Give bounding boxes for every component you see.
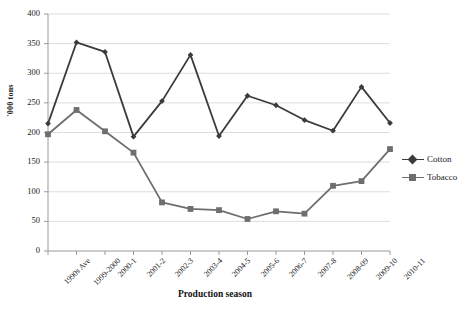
y-tick-label: 150 bbox=[14, 157, 40, 166]
x-axis-title: Production season bbox=[178, 289, 252, 299]
y-tick-label: 50 bbox=[14, 216, 40, 225]
y-tick-label: 350 bbox=[14, 39, 40, 48]
chart-legend: Cotton Tobacco bbox=[402, 150, 457, 186]
y-tick-label: 0 bbox=[14, 246, 40, 255]
y-tick-label: 300 bbox=[14, 68, 40, 77]
y-tick-label: 400 bbox=[14, 9, 40, 18]
legend-swatch-cotton bbox=[402, 154, 424, 164]
y-tick-label: 100 bbox=[14, 187, 40, 196]
legend-item-tobacco: Tobacco bbox=[402, 168, 457, 186]
legend-item-cotton: Cotton bbox=[402, 150, 457, 168]
legend-label-tobacco: Tobacco bbox=[427, 172, 457, 182]
y-tick-label: 200 bbox=[14, 128, 40, 137]
y-tick-label: 250 bbox=[14, 98, 40, 107]
chart-figure: '000 tons Production season 050100150200… bbox=[0, 0, 476, 316]
legend-swatch-tobacco bbox=[402, 172, 424, 182]
legend-label-cotton: Cotton bbox=[427, 154, 452, 164]
